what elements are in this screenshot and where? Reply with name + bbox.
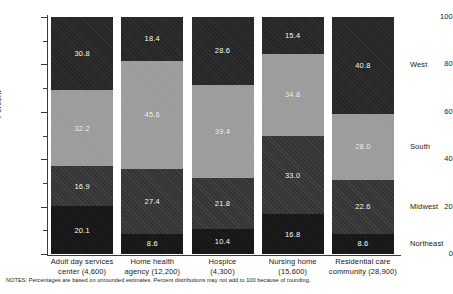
chart-notes: NOTES: Percentages are based on unrounde… [6,277,446,284]
bar-segment-value-label: 27.4 [145,197,160,206]
bar-segment-south[interactable]: 39.4 [192,85,254,178]
bar-segment-northeast[interactable]: 10.4 [192,229,254,254]
bar-segment-northeast[interactable]: 8.6 [121,234,183,254]
legend-item-northeast[interactable]: Northeast [410,239,443,248]
bar-segment-south[interactable]: 45.6 [121,61,183,169]
bar-segment-value-label: 30.8 [74,49,89,58]
bar-segment-value-label: 22.6 [355,202,370,211]
stacked-bar-chart: Percent 020406080100 20.116.932.230.88.6… [0,0,453,294]
bar-segment-value-label: 8.6 [357,239,368,248]
bar-segment-northeast[interactable]: 16.8 [262,214,324,254]
bar-segment-value-label: 40.8 [355,61,370,70]
bar[interactable]: 10.421.839.428.6 [192,17,254,254]
category-label-line: community (28,900) [315,267,411,277]
bar-segment-northeast[interactable]: 20.1 [51,206,113,254]
bar-segment-northeast[interactable]: 8.6 [332,234,394,254]
bar-group: 20.116.932.230.88.627.445.618.410.421.83… [47,17,398,254]
bar-segment-value-label: 33.0 [285,171,300,180]
legend-item-west[interactable]: West [410,60,427,69]
bar-segment-value-label: 18.4 [145,34,160,43]
bar-segment-midwest[interactable]: 21.8 [192,178,254,230]
bar-segment-midwest[interactable]: 22.6 [332,180,394,234]
bar-segment-midwest[interactable]: 33.0 [262,136,324,214]
bar-segment-west[interactable]: 28.6 [192,17,254,85]
bar-segment-midwest[interactable]: 27.4 [121,169,183,234]
bar-segment-value-label: 39.4 [215,127,230,136]
bar-segment-south[interactable]: 28.0 [332,114,394,180]
bar-segment-west[interactable]: 40.8 [332,17,394,114]
bar-segment-value-label: 32.2 [74,124,89,133]
bar-segment-value-label: 16.8 [285,230,300,239]
bar-segment-value-label: 8.6 [147,239,158,248]
y-axis-tick [41,254,47,255]
bar-segment-midwest[interactable]: 16.9 [51,166,113,206]
bar-segment-south[interactable]: 34.8 [262,54,324,136]
bar-segment-value-label: 21.8 [215,199,230,208]
bar[interactable]: 8.627.445.618.4 [121,17,183,254]
bar-segment-value-label: 28.0 [355,142,370,151]
bar-segment-south[interactable]: 32.2 [51,90,113,166]
y-axis-title: Percent [0,90,3,118]
x-axis-line [47,255,401,256]
bar-segment-value-label: 15.4 [285,31,300,40]
legend-item-south[interactable]: South [410,142,430,151]
bar-segment-value-label: 45.6 [145,110,160,119]
category-label-line: Residential care [315,257,411,267]
bar-segment-value-label: 28.6 [215,46,230,55]
bar[interactable]: 8.622.628.040.8 [332,17,394,254]
bar[interactable]: 20.116.932.230.8 [51,17,113,254]
bar-segment-value-label: 34.8 [285,90,300,99]
legend-item-midwest[interactable]: Midwest [410,202,438,211]
bar[interactable]: 16.833.034.815.4 [262,17,324,254]
bar-segment-value-label: 20.1 [74,226,89,235]
bar-segment-west[interactable]: 18.4 [121,17,183,61]
bar-segment-west[interactable]: 15.4 [262,17,324,53]
legend: WestSouthMidwestNortheast [404,0,453,260]
x-axis-category-label: Residential carecommunity (28,900) [315,257,411,276]
bar-segment-value-label: 10.4 [215,237,230,246]
bar-segment-west[interactable]: 30.8 [51,17,113,90]
bar-segment-value-label: 16.9 [74,182,89,191]
